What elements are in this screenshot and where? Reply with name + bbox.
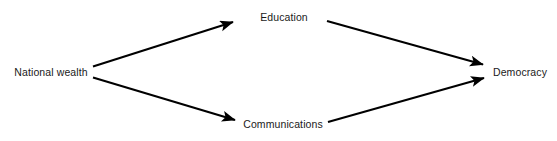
path-diagram: National wealth Education Communications… [0,0,557,141]
node-communications: Communications [243,118,323,130]
arrow-national-wealth-to-education [93,22,233,67]
arrow-communications-to-democracy [328,78,484,122]
arrow-education-to-democracy [327,21,483,65]
arrow-national-wealth-to-communications [93,78,235,121]
node-national-wealth: National wealth [14,66,87,78]
node-democracy: Democracy [493,66,547,78]
node-education: Education [260,11,308,23]
